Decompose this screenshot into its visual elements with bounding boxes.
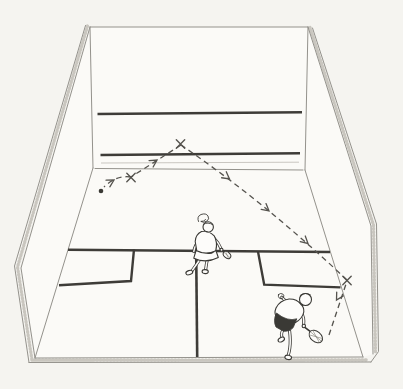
squash-court-diagram [0, 0, 403, 389]
floor-outer-edge [29, 362, 371, 363]
receiver-shoe [202, 269, 208, 273]
half-court-line [196, 253, 197, 357]
front-wall-tin-line [101, 153, 301, 155]
striker-hand [302, 324, 305, 327]
striker-shoe [285, 355, 292, 360]
front-wall [90, 27, 308, 170]
ball-dot [99, 189, 104, 194]
scanned-diagram-page [0, 0, 403, 389]
receiver-hand [220, 248, 223, 251]
